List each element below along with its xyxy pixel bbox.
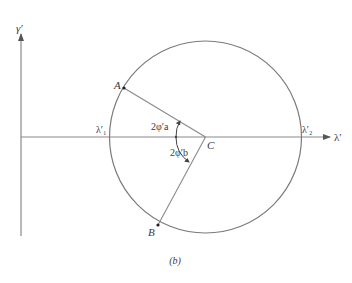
- angle-lower-label: 2φ′b: [170, 147, 188, 158]
- point-a-label: A: [113, 79, 121, 91]
- center-label: C: [207, 139, 215, 151]
- mohr-circle-diagram: γ′ λ′ A B C λ′₁ λ′₂ 2φ′a 2φ′b (b): [0, 0, 352, 283]
- angle-vertex-dot: [175, 136, 177, 138]
- horizontal-axis-label: λ′: [334, 131, 342, 143]
- point-a-marker: [122, 86, 125, 89]
- angle-upper-label: 2φ′a: [151, 121, 169, 132]
- point-b-marker: [156, 223, 159, 226]
- point-b-label: B: [148, 226, 155, 238]
- angle-arc-upper: [176, 121, 180, 137]
- lambda-1-label: λ′₁: [96, 124, 107, 135]
- vertical-axis-label: γ′: [16, 22, 23, 34]
- figure-caption: (b): [169, 255, 181, 267]
- lambda-2-label: λ′₂: [302, 124, 313, 135]
